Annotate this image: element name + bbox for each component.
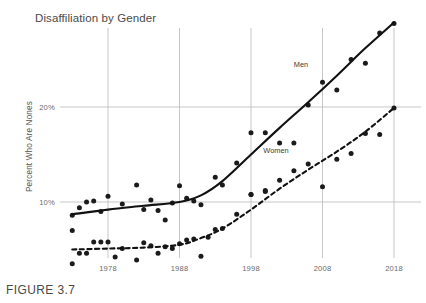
series-men-trendline: [72, 22, 394, 214]
svg-text:20%: 20%: [39, 103, 55, 112]
svg-text:2008: 2008: [314, 264, 332, 273]
y-axis-tick-labels: 10%20%: [39, 103, 55, 207]
svg-text:Men: Men: [294, 60, 308, 69]
svg-text:10%: 10%: [39, 198, 55, 207]
svg-text:1988: 1988: [171, 264, 189, 273]
figure-caption: FIGURE 3.7: [6, 283, 75, 297]
series-women-points: [70, 105, 397, 266]
figure-container: Disaffiliation by Gender Percent Who Are…: [0, 0, 426, 303]
scatter-plot: 19781988199820082018 10%20% MenWomen: [0, 0, 426, 303]
gridlines-horizontal: [60, 107, 421, 202]
x-axis-tick-labels: 19781988199820082018: [99, 264, 403, 273]
svg-text:1978: 1978: [99, 264, 117, 273]
svg-text:2018: 2018: [385, 264, 403, 273]
svg-text:1998: 1998: [242, 264, 260, 273]
series-women-trendline: [72, 108, 394, 250]
svg-text:Women: Women: [263, 146, 288, 155]
series-men-points: [70, 21, 397, 223]
